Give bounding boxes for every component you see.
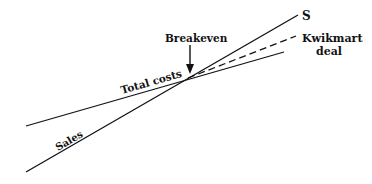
breakeven-label: Breakeven [165, 32, 228, 44]
total-costs-label: Total costs [119, 67, 183, 96]
total-costs-line [26, 52, 284, 126]
kwikmart-label-line2: deal [316, 45, 342, 58]
breakeven-diagram: S Kwikmart deal Breakeven Total costs Sa… [0, 0, 372, 184]
sales-end-label: S [302, 9, 311, 23]
sales-line [26, 15, 298, 172]
sales-label: Sales [54, 128, 85, 152]
kwikmart-label-line1: Kwikmart [302, 32, 363, 45]
breakeven-arrow-icon [186, 45, 194, 74]
